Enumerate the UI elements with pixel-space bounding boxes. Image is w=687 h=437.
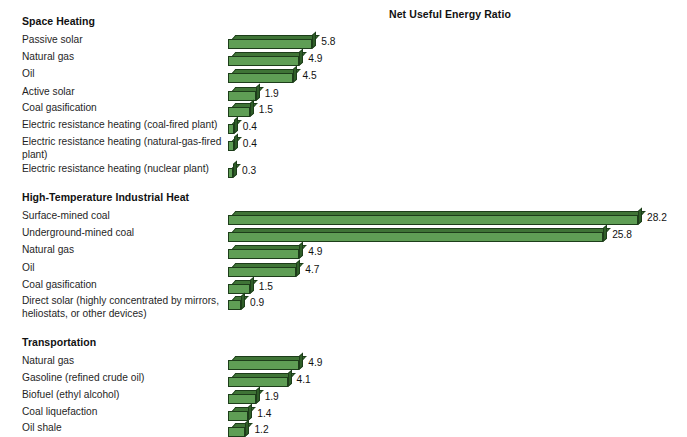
bar-row: Oil4.7 (0, 261, 687, 278)
bar-side-face (234, 116, 238, 134)
bar-row-label: Coal gasification (22, 278, 97, 291)
bar-side-face (250, 276, 254, 294)
bar-front-face (228, 141, 234, 151)
bar-3d (228, 263, 301, 277)
bar-row-label: Natural gas (22, 50, 74, 63)
bar-front-face (228, 107, 250, 117)
bar-side-face (241, 292, 245, 310)
bar-3d (228, 211, 643, 225)
bar-3d (228, 390, 261, 404)
bar-front-face (228, 267, 296, 277)
bar-side-face (256, 83, 260, 101)
bar-row: Passive solar5.8 (0, 33, 687, 50)
bar-3d (228, 35, 317, 49)
section-heading: High-Temperature Industrial Heat (22, 191, 189, 203)
bar-row-label: Electric resistance heating (natural-gas… (22, 135, 237, 161)
bar-front-face (228, 56, 299, 66)
bar-side-face (299, 48, 303, 66)
bar-value-label: 28.2 (647, 212, 667, 223)
bar-row-label: Coal liquefaction (22, 405, 97, 418)
bar-row-label: Oil shale (22, 421, 62, 434)
bar-value-label: 4.7 (305, 264, 319, 275)
bar-value-label: 25.8 (612, 229, 632, 240)
bar-front-face (228, 427, 245, 437)
bar-3d (228, 52, 304, 66)
bar-3d (228, 164, 238, 178)
bar-row: Coal gasification1.5 (0, 278, 687, 295)
chart-title: Net Useful Energy Ratio (389, 8, 511, 20)
bar-side-face (256, 386, 260, 404)
bar-value-label: 1.4 (257, 408, 271, 419)
bar-row-label: Electric resistance heating (nuclear pla… (22, 162, 209, 175)
bar-front-face (228, 411, 248, 421)
bar-value-label: 0.3 (242, 165, 256, 176)
section-heading: Space Heating (22, 15, 95, 27)
bar-row: Natural gas4.9 (0, 243, 687, 260)
bar-front-face (228, 249, 299, 259)
bar-row: Coal liquefaction1.4 (0, 405, 687, 422)
bar-row-label: Underground-mined coal (22, 226, 134, 239)
bar-front-face (228, 377, 288, 387)
bar-row: Electric resistance heating (nuclear pla… (0, 162, 687, 179)
bar-row: Oil shale1.2 (0, 421, 687, 437)
bar-row: Surface-mined coal28.2 (0, 209, 687, 226)
bar-side-face (293, 65, 297, 83)
bar-side-face (234, 133, 238, 151)
bar-side-face (299, 352, 303, 370)
bar-row: Natural gas4.9 (0, 50, 687, 67)
bar-row-label: Natural gas (22, 243, 74, 256)
bar-side-face (299, 241, 303, 259)
bar-value-label: 4.1 (297, 374, 311, 385)
bar-3d (228, 103, 255, 117)
bar-front-face (228, 360, 299, 370)
bar-row-label: Biofuel (ethyl alcohol) (22, 388, 119, 401)
bar-row-label: Oil (22, 261, 34, 274)
bar-row: Underground-mined coal25.8 (0, 226, 687, 243)
bar-row-label: Passive solar (22, 33, 83, 46)
bar-value-label: 0.4 (243, 138, 257, 149)
bar-side-face (312, 31, 316, 49)
bar-3d (228, 228, 608, 242)
bar-side-face (245, 419, 249, 437)
bar-value-label: 1.2 (254, 424, 268, 435)
bar-value-label: 4.9 (308, 357, 322, 368)
bar-front-face (228, 168, 233, 178)
bar-front-face (228, 39, 312, 49)
bar-row: Active solar1.9 (0, 85, 687, 102)
bar-3d (228, 356, 304, 370)
bar-side-face (233, 160, 237, 178)
bar-row-label: Natural gas (22, 354, 74, 367)
bar-row: Gasoline (refined crude oil)4.1 (0, 371, 687, 388)
bar-value-label: 4.9 (308, 53, 322, 64)
bar-3d (228, 296, 246, 310)
bar-3d (228, 423, 250, 437)
bar-side-face (288, 369, 292, 387)
bar-row: Coal gasification1.5 (0, 101, 687, 118)
energy-ratio-chart: Net Useful Energy Ratio Space HeatingPas… (0, 0, 687, 437)
bar-row-label: Coal gasification (22, 101, 97, 114)
bar-row: Direct solar (highly concentrated by mir… (0, 294, 687, 311)
bar-row: Natural gas4.9 (0, 354, 687, 371)
bar-row-label: Gasoline (refined crude oil) (22, 371, 144, 384)
bar-row-label: Direct solar (highly concentrated by mir… (22, 294, 237, 320)
bar-3d (228, 87, 261, 101)
bar-value-label: 0.4 (243, 121, 257, 132)
bar-front-face (228, 124, 234, 134)
bar-3d (228, 407, 253, 421)
bar-3d (228, 280, 255, 294)
bar-row-label: Active solar (22, 85, 75, 98)
bar-3d (228, 120, 239, 134)
bar-value-label: 1.9 (265, 391, 279, 402)
bar-side-face (250, 99, 254, 117)
bar-3d (228, 245, 304, 259)
bar-value-label: 4.5 (302, 70, 316, 81)
bar-row: Oil4.5 (0, 67, 687, 84)
bar-front-face (228, 232, 603, 242)
bar-row-label: Oil (22, 67, 34, 80)
bar-row: Biofuel (ethyl alcohol)1.9 (0, 388, 687, 405)
bar-front-face (228, 284, 250, 294)
bar-front-face (228, 215, 638, 225)
bar-3d (228, 137, 239, 151)
bar-value-label: 1.9 (265, 88, 279, 99)
bar-value-label: 5.8 (321, 36, 335, 47)
